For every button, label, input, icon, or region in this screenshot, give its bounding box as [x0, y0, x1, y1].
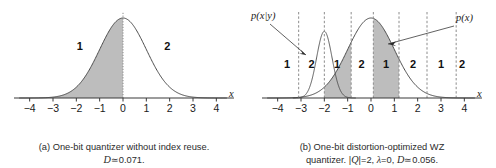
pxy-leader-line	[270, 24, 306, 55]
tick-label: −2	[70, 102, 82, 114]
tick-label: −1	[94, 102, 106, 114]
tick-label: 1	[143, 102, 149, 114]
tick-label: 4	[213, 102, 219, 114]
region-label: 2	[459, 58, 465, 70]
panel-a-shaded-region	[20, 18, 123, 98]
tick-label: −4	[272, 102, 284, 114]
region-label: 1	[383, 58, 389, 70]
panel-b-annotation-arrows	[270, 24, 454, 55]
panel-b-codebook-symbol: Q	[351, 154, 358, 165]
panel-b-axis	[262, 98, 482, 102]
panel-a-caption-line1: (a) One-bit quantizer without index reus…	[39, 142, 210, 152]
panel-b-caption-mid: |=2,	[359, 155, 377, 165]
tick-label: 2	[167, 102, 173, 114]
panel-b-annotation-pxy: p(x|y)	[251, 10, 275, 21]
tick-label: 4	[461, 102, 467, 114]
panel-b-annotation-px: p(x)	[456, 12, 473, 23]
tick-label: −4	[24, 102, 36, 114]
panel-b-plot: −4−3−2−101234 12121212 p(x|y) p(x) x	[248, 0, 496, 126]
region-label: 1	[284, 58, 290, 70]
panel-b-axis-label: x	[477, 88, 482, 99]
tick-label: −1	[342, 102, 354, 114]
tick-label: −2	[318, 102, 330, 114]
panel-a-svg: −4−3−2−101234 12	[0, 0, 248, 126]
panel-a-region-labels: 12	[77, 40, 171, 52]
panel-a: −4−3−2−101234 12 x (a) One-bit quantizer…	[0, 0, 248, 168]
panel-b-caption: (b) One-bit distortion-optimized WZ quan…	[248, 141, 496, 166]
panel-a-caption-line2: D≃0.071.	[0, 154, 248, 167]
panel-b-caption-prefix: quantizer. |	[306, 155, 351, 165]
region-label: 2	[164, 40, 170, 52]
panel-a-axis	[14, 98, 234, 102]
region-label: 1	[438, 58, 444, 70]
tick-label: 0	[368, 102, 374, 114]
panel-a-distortion-symbol: D	[103, 154, 110, 165]
tick-label: −3	[295, 102, 307, 114]
region-label: 2	[308, 58, 314, 70]
panel-a-axis-label: x	[229, 88, 234, 99]
region-label: 2	[359, 58, 365, 70]
panel-a-distortion-value: ≃0.071.	[111, 155, 145, 165]
tick-label: −3	[47, 102, 59, 114]
region-label: 2	[410, 58, 416, 70]
tick-label: 3	[190, 102, 196, 114]
panel-b: −4−3−2−101234 12121212 p(x|y) p(x) x (b)…	[248, 0, 496, 168]
figure-container: −4−3−2−101234 12 x (a) One-bit quantizer…	[0, 0, 496, 168]
px-leader-line	[388, 26, 454, 44]
panel-b-caption-line1: (b) One-bit distortion-optimized WZ	[300, 142, 445, 152]
panel-a-plot: −4−3−2−101234 12 x	[0, 0, 248, 126]
panel-a-tick-labels: −4−3−2−101234	[24, 102, 220, 114]
region-label: 1	[334, 58, 340, 70]
tick-label: 2	[415, 102, 421, 114]
region-label: 1	[77, 40, 83, 52]
panel-b-caption-mid2: =0,	[381, 155, 397, 165]
panel-b-caption-line2: quantizer. |Q|=2, λ=0, D≃0.056.	[248, 154, 496, 167]
panel-b-tick-labels: −4−3−2−101234	[272, 102, 468, 114]
tick-label: 0	[120, 102, 126, 114]
tick-label: 1	[391, 102, 397, 114]
panel-b-distortion-value: ≃0.056.	[404, 155, 438, 165]
panel-a-caption: (a) One-bit quantizer without index reus…	[0, 141, 248, 166]
tick-label: 3	[438, 102, 444, 114]
